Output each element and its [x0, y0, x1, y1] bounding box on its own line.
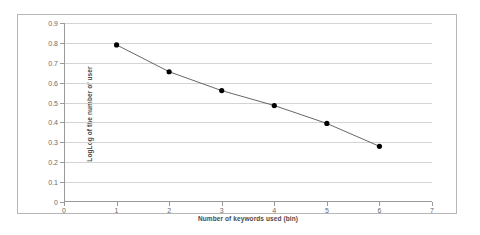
- y-tick-label: 0.5: [48, 99, 58, 106]
- x-tick-mark: [64, 202, 65, 206]
- x-axis-title: Number of keywords used (bin): [64, 215, 432, 222]
- x-tick-mark: [169, 202, 170, 206]
- x-tick-mark: [222, 202, 223, 206]
- data-series: [64, 23, 432, 202]
- x-tick-mark: [274, 202, 275, 206]
- plot-area: 00.10.20.30.40.50.60.70.80.9 01234567: [64, 23, 432, 202]
- y-tick-label: 0.2: [48, 159, 58, 166]
- data-point: [167, 69, 172, 74]
- x-tick-label: 6: [377, 207, 381, 214]
- data-point: [114, 42, 119, 47]
- chart-frame: LogLog of the number of user 00.10.20.30…: [17, 14, 457, 214]
- x-tick-label: 0: [62, 207, 66, 214]
- y-tick-label: 0.3: [48, 139, 58, 146]
- y-tick-label: 0.9: [48, 20, 58, 27]
- x-tick-mark: [327, 202, 328, 206]
- x-tick-label: 5: [325, 207, 329, 214]
- y-tick-label: 0.1: [48, 179, 58, 186]
- x-tick-mark: [432, 202, 433, 206]
- y-tick-label: 0.6: [48, 79, 58, 86]
- x-tick-label: 2: [167, 207, 171, 214]
- data-point: [324, 121, 329, 126]
- data-point: [377, 144, 382, 149]
- series-line: [117, 45, 380, 146]
- data-point: [272, 103, 277, 108]
- data-point: [219, 88, 224, 93]
- x-tick-label: 3: [220, 207, 224, 214]
- x-tick-mark: [379, 202, 380, 206]
- x-tick-mark: [117, 202, 118, 206]
- y-tick-label: 0: [54, 199, 58, 206]
- x-tick-label: 4: [272, 207, 276, 214]
- y-tick-label: 0.8: [48, 39, 58, 46]
- x-tick-label: 7: [430, 207, 434, 214]
- y-tick-label: 0.7: [48, 59, 58, 66]
- x-tick-label: 1: [115, 207, 119, 214]
- y-tick-label: 0.4: [48, 119, 58, 126]
